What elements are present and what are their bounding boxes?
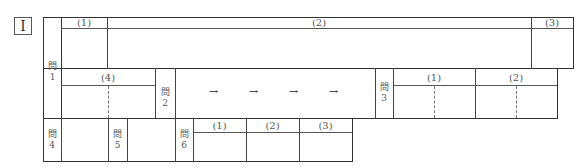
arrow-icon: → [249,85,258,98]
arrow-icon: → [329,85,338,98]
q6-part2-answer-box[interactable] [247,133,298,161]
q3-part2-answer-box[interactable] [476,86,556,118]
q6-part1-header: (1) [193,120,246,131]
arrow-icon: → [289,85,298,98]
q3-label: 問 3 [375,82,393,104]
q1-part1-answer-box[interactable] [62,29,106,68]
q1-part4-answer-box[interactable] [62,86,154,118]
q3-part1-answer-box[interactable] [394,86,474,118]
q1-part2-answer-box[interactable] [108,29,530,68]
q1-part2-header: (2) [107,17,531,28]
q6-label: 問 6 [175,129,193,151]
section-number: I [14,17,32,35]
q4-label: 問 4 [43,129,61,151]
q6-part1-answer-box[interactable] [194,133,245,161]
q3-part1-header: (1) [393,72,475,83]
q1-part3-answer-box[interactable] [532,29,572,68]
q6-part3-answer-box[interactable] [300,133,351,161]
q1-label: 問 1 [43,61,62,83]
q1-part4-header: (4) [61,72,155,83]
q1-part3-header: (3) [531,17,573,28]
q2-label: 問 2 [155,87,175,109]
arrow-icon: → [209,85,218,98]
q5-label: 問 5 [108,129,127,151]
q6-part3-header: (3) [299,120,352,131]
q3-part2-header: (2) [475,72,557,83]
q4-answer-box[interactable] [62,119,107,161]
q6-part2-header: (2) [246,120,299,131]
q2-sequence-answer-box[interactable] [176,69,375,118]
q1-part1-header: (1) [61,17,107,28]
q5-answer-box[interactable] [128,119,174,161]
